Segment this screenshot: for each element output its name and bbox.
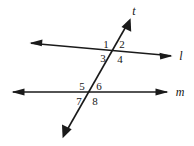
angle-label-6: 6 <box>96 81 102 92</box>
line-t-arrowhead-bottom <box>62 125 72 139</box>
line-l-arrowhead-left <box>30 40 43 47</box>
angle-label-4: 4 <box>117 54 123 65</box>
line-t-group <box>62 18 131 138</box>
angle-label-7: 7 <box>76 96 82 107</box>
angle-label-8: 8 <box>92 96 98 107</box>
angle-label-2: 2 <box>119 39 125 50</box>
line-m-arrowhead-right <box>156 89 169 96</box>
line-label-t: t <box>132 5 135 17</box>
geometry-canvas <box>0 0 194 146</box>
angle-label-5: 5 <box>79 81 85 92</box>
angle-label-1: 1 <box>103 39 109 50</box>
geometry-figure: 1 2 3 4 5 6 7 8 t l m <box>0 0 194 146</box>
line-t-arrowhead-top <box>122 18 132 32</box>
line-m-arrowhead-left <box>12 89 25 96</box>
line-label-m: m <box>176 86 185 98</box>
line-l-arrowhead-right <box>160 53 173 60</box>
line-label-l: l <box>179 50 182 62</box>
angle-label-3: 3 <box>100 53 106 64</box>
